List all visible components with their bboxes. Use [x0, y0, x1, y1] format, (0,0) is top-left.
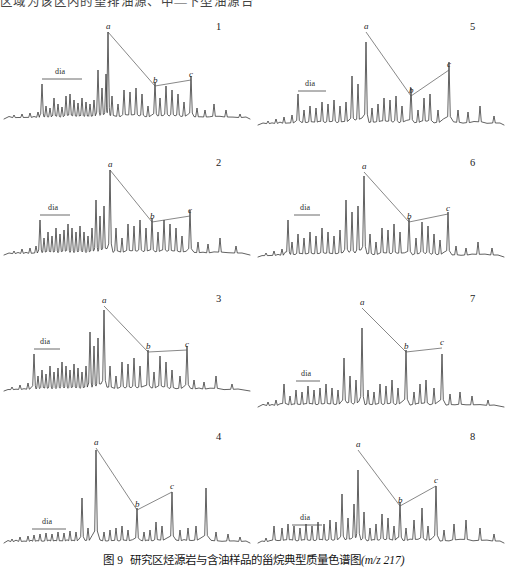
- peak-label-c-panel-8: c: [434, 476, 438, 485]
- peak-label-c-panel-5: c: [447, 60, 451, 69]
- chromatogram-panel-1: abcdia1: [0, 14, 254, 142]
- peak-label-c-panel-3: c: [185, 340, 189, 349]
- chromatogram-trace-2: [0, 150, 254, 278]
- caption-number: 图 9: [103, 554, 123, 566]
- trace-line: [4, 310, 250, 391]
- peak-label-a-panel-1: a: [106, 22, 111, 31]
- caption-mz: (m/z 217): [361, 554, 405, 566]
- panel-number-1: 1: [216, 22, 221, 32]
- figure-root: 区域为该区内的望排油源、中—下型油源台 abcdia1abcdia2abcdia…: [0, 0, 508, 572]
- peak-label-a-panel-7: a: [360, 298, 365, 307]
- trace-line: [258, 328, 504, 407]
- peak-label-b-panel-8: b: [398, 496, 403, 505]
- peak-label-c-panel-7: c: [440, 338, 444, 347]
- trace-line: [4, 32, 250, 119]
- dia-label-panel-5: dia: [305, 80, 315, 88]
- peak-label-b-panel-1: b: [153, 76, 158, 85]
- peak-label-a-panel-3: a: [102, 296, 107, 305]
- peak-label-b-panel-5: b: [409, 86, 414, 95]
- clipped-header-label: 区域为该区内的望排油源、中—下型油源台: [0, 0, 508, 9]
- chromatogram-trace-6: [254, 150, 508, 278]
- dia-label-panel-2: dia: [48, 204, 58, 212]
- dia-label-panel-3: dia: [40, 338, 50, 346]
- peak-connector-line: [366, 32, 449, 96]
- chromatogram-trace-7: [254, 286, 508, 414]
- chromatogram-trace-4: [0, 424, 254, 552]
- peak-label-c-panel-4: c: [170, 482, 174, 491]
- panel-number-3: 3: [216, 294, 221, 304]
- peak-connector-line: [362, 308, 442, 352]
- dia-label-panel-8: dia: [300, 514, 310, 522]
- chromatogram-panel-2: abcdia2: [0, 150, 254, 278]
- peak-label-a-panel-2: a: [108, 160, 113, 169]
- caption-title: 研究区烃源岩与含油样品的甾烷典型质量色谱图: [130, 554, 361, 566]
- chromatogram-panel-7: abcdia7: [254, 286, 508, 414]
- dia-label-panel-7: dia: [301, 370, 311, 378]
- panel-number-5: 5: [470, 22, 475, 32]
- chromatogram-panel-3: abcdia3: [0, 286, 254, 414]
- peak-label-b-panel-3: b: [146, 342, 151, 351]
- peak-label-c-panel-1: c: [189, 70, 193, 79]
- chromatogram-panel-6: abcdia6: [254, 150, 508, 278]
- panel-number-2: 2: [216, 158, 221, 168]
- chromatogram-trace-5: [254, 14, 508, 142]
- peak-label-c-panel-2: c: [188, 206, 192, 215]
- chromatogram-trace-1: [0, 14, 254, 142]
- peak-label-b-panel-2: b: [150, 212, 155, 221]
- peak-label-c-panel-6: c: [446, 204, 450, 213]
- trace-line: [258, 42, 504, 125]
- chromatogram-panel-5: abcdia5: [254, 14, 508, 142]
- peak-connector-line: [364, 172, 448, 222]
- figure-caption: 图 9研究区烃源岩与含油样品的甾烷典型质量色谱图(m/z 217): [0, 551, 508, 567]
- panel-number-6: 6: [470, 158, 475, 168]
- chromatogram-trace-3: [0, 286, 254, 414]
- dia-label-panel-6: dia: [300, 204, 310, 212]
- peak-connector-line: [108, 32, 191, 86]
- peak-label-b-panel-4: b: [135, 500, 140, 509]
- peak-connector-line: [358, 450, 436, 506]
- peak-connector-line: [96, 448, 172, 510]
- peak-label-b-panel-6: b: [407, 212, 412, 221]
- clipped-header-text: 区域为该区内的望排油源、中—下型油源台: [0, 0, 508, 13]
- peak-label-a-panel-4: a: [94, 438, 99, 447]
- chromatogram-panel-4: abcdia4: [0, 424, 254, 552]
- peak-label-a-panel-5: a: [364, 22, 369, 31]
- dia-label-panel-1: dia: [55, 68, 65, 76]
- peak-label-a-panel-6: a: [362, 162, 367, 171]
- peak-label-b-panel-7: b: [404, 342, 409, 351]
- trace-line: [258, 176, 504, 257]
- trace-line: [4, 170, 250, 255]
- panel-number-4: 4: [216, 432, 221, 442]
- peak-label-a-panel-8: a: [356, 440, 361, 449]
- panel-number-7: 7: [470, 294, 475, 304]
- dia-label-panel-4: dia: [42, 518, 52, 526]
- chromatogram-panel-8: abcdia8: [254, 424, 508, 552]
- chromatogram-trace-8: [254, 424, 508, 552]
- panel-number-8: 8: [470, 432, 475, 442]
